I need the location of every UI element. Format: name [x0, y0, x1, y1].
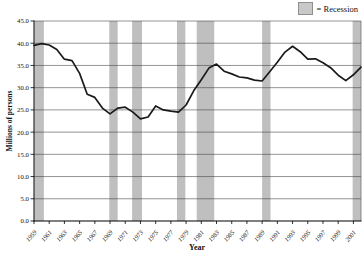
y-tick-label: 25.0: [17, 106, 29, 113]
y-tick-label: 30.0: [17, 84, 29, 91]
y-tick-label: 5.0: [21, 195, 30, 202]
x-tick-label: 1983: [207, 229, 221, 243]
x-tick-label: 1959: [24, 228, 38, 243]
recession-band: [177, 21, 185, 221]
x-axis-title: Year: [189, 243, 205, 252]
recession-band: [197, 21, 214, 221]
x-tick-label: 1979: [176, 228, 190, 243]
legend: = Recession: [298, 2, 358, 15]
poverty-recession-chart: 0.05.010.015.020.025.030.035.040.045.019…: [0, 0, 363, 256]
y-tick-label: 0.0: [21, 217, 30, 224]
x-tick-label: 1961: [39, 229, 53, 243]
x-tick-label: 1963: [55, 229, 69, 243]
x-tick-label: 1981: [191, 229, 205, 243]
legend-label: = Recession: [317, 4, 358, 14]
x-tick-label: 1965: [70, 229, 84, 243]
x-tick-label: 1967: [85, 228, 99, 243]
y-tick-label: 40.0: [17, 40, 29, 47]
x-tick-label: 1999: [328, 228, 342, 243]
recession-band: [34, 21, 44, 221]
recession-band: [353, 21, 361, 221]
y-tick-label: 20.0: [17, 129, 29, 136]
recession-band: [109, 21, 117, 221]
x-tick-label: 1975: [146, 229, 160, 243]
x-tick-label: 1997: [313, 228, 327, 243]
x-tick-label: 1977: [161, 228, 175, 243]
x-tick-label: 1971: [115, 229, 129, 243]
x-tick-label: 1989: [252, 228, 266, 243]
y-tick-label: 10.0: [17, 173, 29, 180]
recession-band: [132, 21, 142, 221]
chart-canvas: 0.05.010.015.020.025.030.035.040.045.019…: [0, 0, 363, 256]
x-tick-label: 1985: [222, 229, 236, 243]
y-tick-label: 15.0: [17, 151, 29, 158]
recession-band: [262, 21, 270, 221]
x-tick-label: 1987: [237, 228, 251, 243]
x-tick-label: 1969: [100, 228, 114, 243]
x-tick-label: 1993: [283, 229, 297, 243]
x-tick-label: 1991: [268, 229, 282, 243]
y-tick-label: 45.0: [17, 17, 29, 24]
x-tick-label: 1973: [131, 229, 145, 243]
x-tick-label: 1995: [298, 229, 312, 243]
y-axis-title: Millions of persons: [5, 91, 14, 152]
y-tick-label: 35.0: [17, 62, 29, 69]
x-tick-label: 2001: [344, 229, 358, 243]
recession-swatch-icon: [298, 2, 313, 15]
